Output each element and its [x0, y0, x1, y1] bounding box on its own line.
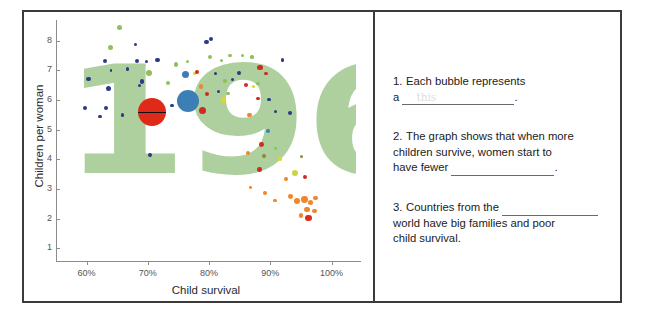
chart-panel: 1960 1234567860%70%80%90%100% Child surv…: [24, 12, 373, 301]
bubble-point: [250, 55, 253, 58]
x-tick-60: [87, 261, 88, 265]
bubble-point: [257, 65, 263, 71]
bubble-scatter-layer: [56, 20, 356, 260]
question-1-line-2-prefix: a: [393, 91, 399, 103]
bubble-point: [134, 43, 137, 46]
question-3-line-2: world have big families and poor: [393, 217, 555, 229]
y-tick-7: [56, 70, 60, 71]
bubble-point: [138, 84, 141, 87]
bubble-point: [135, 59, 139, 63]
bubble-point: [292, 170, 298, 176]
question-2-answer-blank[interactable]: [451, 163, 554, 176]
bubble-point: [221, 97, 226, 102]
bubble-point: [305, 215, 312, 222]
bubble-point: [174, 62, 179, 67]
question-1-period: .: [514, 91, 517, 103]
bubble-point: [259, 142, 264, 147]
bubble-point: [281, 58, 284, 61]
question-3-answer-blank[interactable]: [502, 203, 598, 216]
bubble-point: [199, 84, 204, 89]
bubble-point: [241, 54, 244, 57]
bubble-point: [170, 104, 174, 108]
bubble-point: [228, 54, 232, 58]
x-tick-70: [148, 261, 149, 265]
x-tick-90: [270, 261, 271, 265]
bubble-point: [231, 78, 234, 81]
bubble-point: [304, 207, 309, 212]
worksheet-page: 1960 1234567860%70%80%90%100% Child surv…: [22, 10, 622, 303]
bubble-highlight-line: [138, 112, 166, 114]
bubble-point: [266, 129, 270, 133]
bubble-point: [274, 147, 277, 150]
question-2: 2. The graph shows that when more childr…: [393, 129, 615, 176]
bubble-point: [110, 69, 113, 72]
bubble-point: [205, 92, 209, 96]
bubble-point: [121, 113, 124, 116]
bubble-point: [313, 196, 317, 200]
bubble-point: [199, 107, 206, 114]
bubble-point: [246, 151, 250, 155]
plot-area: 1960: [56, 20, 356, 260]
bubble-point: [86, 77, 90, 81]
bubble-point: [148, 153, 152, 157]
bubble-point: [308, 200, 313, 205]
question-2-line-2: children survive, women start to: [393, 146, 552, 158]
question-1-number: 1.: [393, 74, 406, 90]
y-axis-title: Children per woman: [33, 41, 45, 231]
bubble-point: [267, 98, 270, 101]
questions-panel: 1. Each bubble represents a this. 2. The…: [375, 12, 620, 301]
y-tick-8: [56, 41, 60, 42]
bubble-point: [312, 209, 316, 213]
bubble-point: [98, 115, 101, 118]
bubble-point: [204, 40, 208, 44]
question-1: 1. Each bubble represents a this.: [393, 74, 615, 105]
x-axis-title: Child survival: [56, 284, 356, 296]
bubble-point: [294, 198, 300, 204]
y-axis-line: [56, 20, 57, 262]
bubble-point: [274, 110, 277, 113]
bubble-point: [126, 67, 130, 71]
bubble-point: [237, 71, 241, 75]
bubble-point: [195, 70, 200, 75]
x-tick-label-60: 60%: [70, 268, 104, 278]
bubble-point: [288, 111, 292, 115]
y-tick-3: [56, 189, 60, 190]
bubble-point: [208, 55, 212, 59]
y-tick-label-1: 1: [38, 243, 52, 252]
bubble-point: [209, 37, 213, 41]
bubble-point: [103, 59, 107, 63]
bubble-point: [217, 90, 220, 93]
bubble-point: [252, 85, 255, 88]
bubble-point: [244, 83, 248, 87]
bubble-point: [108, 45, 113, 50]
question-1-body: Each bubble represents a this.: [393, 75, 525, 103]
bubble-point: [117, 25, 122, 30]
bubble-point: [262, 154, 266, 158]
question-2-period: .: [554, 161, 557, 173]
bubble-point: [146, 70, 152, 76]
bubble-china: [177, 90, 199, 112]
x-tick-80: [209, 261, 210, 265]
y-tick-6: [56, 100, 60, 101]
erased-answer-1: this: [416, 90, 436, 106]
question-3-line-1-prefix: Countries from the: [406, 201, 499, 213]
bubble-point: [288, 194, 293, 199]
bubble-point: [273, 199, 276, 202]
x-tick-label-90: 90%: [253, 268, 287, 278]
bubble-point: [284, 177, 288, 181]
x-tick-label-100: 100%: [315, 268, 349, 278]
bubble-point: [226, 92, 230, 96]
bubble-point: [223, 79, 227, 83]
bubble-point: [300, 155, 303, 158]
bubble-point: [256, 97, 260, 101]
question-3-body: Countries from the world have big famili…: [393, 201, 598, 244]
bubble-point: [303, 175, 307, 179]
bubble-point: [214, 72, 217, 75]
question-3-number: 3.: [393, 200, 406, 216]
bubble-point: [166, 81, 170, 85]
bubble-point: [264, 72, 267, 75]
question-3: 3. Countries from the world have big fam…: [393, 200, 615, 247]
bubble-point: [220, 59, 223, 62]
bubble-point: [263, 191, 267, 195]
question-1-answer-blank[interactable]: this: [402, 92, 514, 105]
